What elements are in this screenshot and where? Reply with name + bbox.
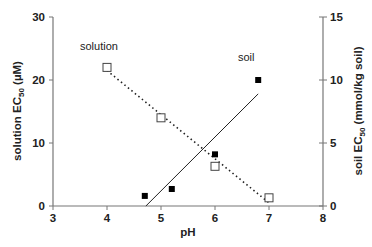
solution-trendline (107, 71, 269, 203)
x-tick-label: 5 (158, 212, 165, 224)
y-right-tick-label: 15 (330, 11, 343, 23)
y-left-tick-label: 0 (39, 200, 45, 212)
data-points (103, 63, 273, 201)
y-axis-right-title: soil EC50 (mmol/kg soil) (352, 46, 367, 175)
x-tick-label: 8 (320, 212, 327, 224)
soil-trendline (146, 94, 258, 206)
annotation-soil: soil (238, 51, 255, 63)
y-left-tick-label: 30 (32, 11, 45, 23)
axes: 3456780102030051015 (32, 11, 343, 224)
solution-point (211, 162, 219, 170)
solution-point (103, 63, 111, 71)
soil-point (142, 193, 148, 199)
y-right-tick-label: 0 (330, 200, 336, 212)
y-right-tick-label: 10 (330, 74, 343, 86)
ec50-ph-chart: 3456780102030051015 solution soil pH sol… (0, 0, 372, 247)
x-tick-label: 7 (266, 212, 272, 224)
soil-point (212, 151, 218, 157)
solution-point (157, 114, 165, 122)
soil-point (169, 186, 175, 192)
soil-point (255, 77, 261, 83)
solution-point (265, 194, 273, 202)
trendlines (107, 71, 269, 206)
y-axis-left-title: solution EC50 (µM) (11, 61, 26, 161)
y-left-tick-label: 10 (32, 137, 45, 149)
x-axis-title: pH (180, 226, 195, 238)
x-tick-label: 4 (104, 212, 111, 224)
y-left-tick-label: 20 (32, 74, 45, 86)
annotation-solution: solution (80, 40, 118, 52)
y-right-tick-label: 5 (330, 137, 337, 149)
x-tick-label: 6 (212, 212, 218, 224)
x-tick-label: 3 (50, 212, 56, 224)
